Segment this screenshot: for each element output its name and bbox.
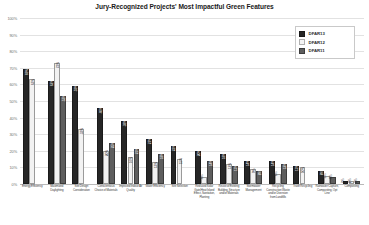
bar[interactable]: 8% [256, 171, 262, 184]
bar-value-label: 46% [100, 107, 103, 113]
y-axis-tick-label: 30% [10, 132, 18, 137]
bar[interactable]: 23% [171, 146, 177, 184]
y-axis-tick-label: 50% [10, 99, 18, 104]
bar-value-label: 73% [57, 62, 60, 68]
legend-label: DFAR12 [309, 40, 325, 45]
bar[interactable]: 21% [134, 149, 140, 184]
bar[interactable]: 10% [300, 167, 306, 184]
y-axis-tick-label: 0% [12, 182, 17, 187]
x-axis-labels: Energy EfficiencyMaximized DaylightingSi… [20, 185, 364, 225]
x-axis-category-label: Site Selection [167, 185, 192, 189]
bar[interactable]: 14% [244, 161, 250, 184]
x-axis-category-label: Site Design Consideration [69, 185, 94, 192]
bar[interactable]: 14% [207, 161, 213, 184]
bar-value-label: 8% [259, 171, 262, 176]
bar-value-label: 14% [272, 160, 275, 166]
bar[interactable]: 11% [232, 166, 238, 184]
bar-value-label: 11% [235, 165, 238, 171]
bar-value-label: 38% [124, 120, 127, 126]
y-axis-tick-label: 20% [10, 148, 18, 153]
bar[interactable]: 12% [226, 164, 232, 184]
bar-value-label: 63% [32, 78, 35, 84]
bar[interactable]: 25% [109, 143, 115, 185]
bar[interactable]: 73% [54, 63, 60, 184]
bar[interactable]: 59% [72, 86, 78, 184]
bar[interactable]: 18% [220, 154, 226, 184]
bar-value-label: 10% [302, 166, 305, 172]
bar[interactable]: 38% [121, 121, 127, 184]
x-axis-category-label: Energy Efficiency [20, 185, 45, 189]
legend-label: DFAR13 [309, 31, 325, 36]
bar-group: 46%20%25% [97, 18, 115, 184]
bar-group: 27%13%18% [146, 18, 164, 184]
bar-value-label: 18% [161, 153, 164, 159]
bar[interactable]: 13% [152, 162, 158, 184]
bar-value-label: 12% [284, 163, 287, 169]
bar-group: 38%16%21% [121, 18, 139, 184]
bar[interactable]: 20% [103, 151, 109, 184]
legend-item-dfar13[interactable]: DFAR13 [299, 30, 351, 39]
bar-group: 20%4%14% [195, 18, 213, 184]
bar-value-label: 6% [275, 172, 278, 177]
x-axis-category-label: Improved Indoor Air Quality [118, 185, 143, 192]
bar[interactable]: 53% [60, 96, 66, 184]
bar-value-label: 4% [201, 175, 204, 180]
bar[interactable]: 46% [97, 108, 103, 184]
bar-value-label: 4% [330, 175, 333, 180]
legend-swatch-icon [299, 31, 305, 37]
bar[interactable]: 9% [250, 169, 256, 184]
x-axis-category-label: Recycling Construction Waste and/or Dive… [266, 185, 291, 199]
bar[interactable]: 62% [48, 81, 54, 184]
bar-group: 23%15% [171, 18, 189, 184]
bar[interactable]: 15% [177, 159, 183, 184]
bar[interactable]: 27% [146, 139, 152, 184]
bar[interactable]: 18% [158, 154, 164, 184]
bar-value-label: 20% [198, 150, 201, 156]
x-axis-category-label: Trash Recycling [290, 185, 315, 189]
bar-value-label: 27% [149, 138, 152, 144]
x-axis-category-label: Composting [339, 185, 364, 189]
x-axis-category-label: Water Efficiency [143, 185, 168, 189]
x-axis-category-label: Rainwater Capture, Composting, Opt Line [315, 185, 340, 196]
bar[interactable]: 4% [201, 177, 207, 184]
y-axis-tick-label: 40% [10, 115, 18, 120]
bar-value-label: 14% [247, 160, 250, 166]
bar[interactable]: 6% [275, 174, 281, 184]
bar[interactable]: 4% [330, 177, 336, 184]
bar-value-label: 5% [324, 173, 327, 178]
bar[interactable]: 12% [281, 164, 287, 184]
bar-value-label: 18% [223, 153, 226, 159]
bar-value-label: 23% [173, 145, 176, 151]
bar[interactable]: 33% [78, 129, 84, 184]
bar-group: 59%33% [72, 18, 90, 184]
legend-swatch-icon [299, 39, 305, 45]
bar[interactable]: 69% [23, 69, 29, 184]
bar-group: 18%12%11% [220, 18, 238, 184]
legend-item-dfar11[interactable]: DFAR11 [299, 47, 351, 56]
x-axis-category-label: Reduced Solar Gain/Heat Island Effect, S… [192, 185, 217, 199]
bar-chart: Jury-Recognized Projects' Most Impactful… [0, 0, 369, 225]
bar-value-label: 2% [342, 178, 345, 183]
bar-group: 14%9%8% [244, 18, 262, 184]
y-axis-tick-label: 60% [10, 82, 18, 87]
bar-value-label: 14% [210, 160, 213, 166]
bar-value-label: 2% [354, 178, 357, 183]
bar[interactable]: 11% [293, 166, 299, 184]
bar-value-label: 33% [81, 128, 84, 134]
bar-value-label: 15% [180, 158, 183, 164]
x-axis-category-label: Reuse of Existing Building, Structure an… [217, 185, 242, 196]
legend-swatch-icon [299, 48, 305, 54]
bar-value-label: 2% [348, 178, 351, 183]
bar-value-label: 69% [26, 69, 29, 75]
y-axis-tick-label: 100% [7, 16, 17, 21]
bar-group: 69%63% [23, 18, 41, 184]
y-axis-tick-label: 70% [10, 65, 18, 70]
bar[interactable]: 63% [29, 79, 35, 184]
bar-value-label: 53% [63, 95, 66, 101]
legend-item-dfar12[interactable]: DFAR12 [299, 38, 351, 47]
bar[interactable]: 16% [128, 157, 134, 184]
y-axis-tick-label: 80% [10, 49, 18, 54]
x-axis-category-label: Maximized Daylighting [45, 185, 70, 192]
bar-value-label: 59% [75, 85, 78, 91]
y-axis-tick-label: 10% [10, 165, 18, 170]
